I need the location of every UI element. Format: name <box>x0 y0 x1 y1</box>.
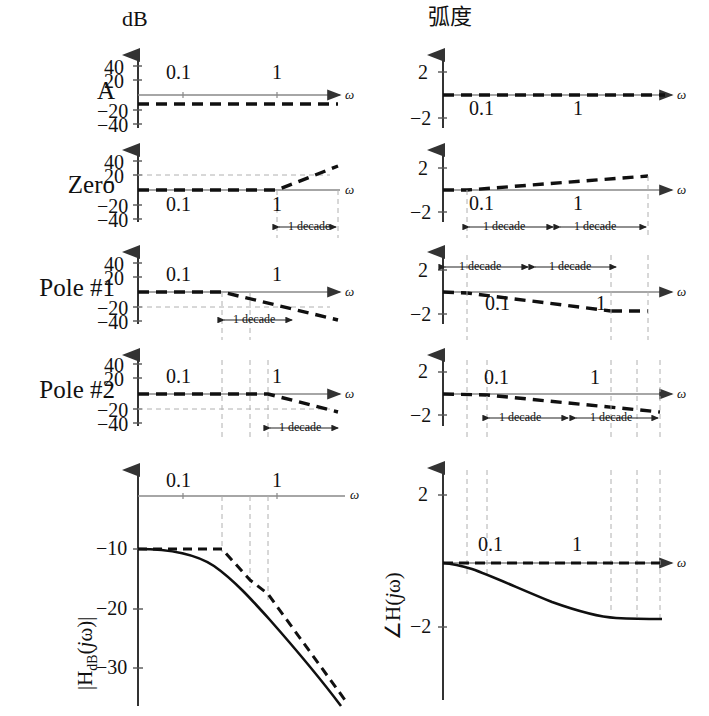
ytick-20: 20 <box>104 268 124 288</box>
panel-a-magnitude <box>133 55 340 128</box>
ytick-neg40: −40 <box>97 414 128 434</box>
xtick-1: 1 <box>573 98 583 118</box>
omega-label: ω <box>677 556 686 569</box>
ytick-2: 2 <box>418 260 428 280</box>
xtick-1: 1 <box>572 534 582 554</box>
xtick-1: 1 <box>596 293 606 313</box>
xtick-0.1: 0.1 <box>484 367 509 387</box>
xtick-0.1: 0.1 <box>166 62 191 82</box>
ytick-2: 2 <box>418 158 428 178</box>
omega-label: ω <box>677 387 686 400</box>
ytick-2: 2 <box>418 484 428 504</box>
ytick-neg40: −40 <box>97 115 128 135</box>
decade-annotation: 1 decade <box>233 313 275 325</box>
xtick-0.1: 0.1 <box>166 194 191 214</box>
xtick-0.1: 0.1 <box>478 534 503 554</box>
ytick-neg30: −30 <box>96 657 127 677</box>
ytick-20: 20 <box>104 71 124 91</box>
omega-label: ω <box>345 285 354 298</box>
row-label-zero: Zero <box>20 172 115 197</box>
ytick-neg2: −2 <box>410 108 431 128</box>
panel-pole2-phase <box>438 355 672 440</box>
ytick-2: 2 <box>418 361 428 381</box>
omega-label: ω <box>677 88 686 101</box>
ytick-20: 20 <box>104 166 124 186</box>
xtick-1: 1 <box>272 264 282 284</box>
ytick-neg20: −20 <box>96 598 127 618</box>
omega-label: ω <box>345 88 354 101</box>
panel-total-magnitude <box>133 470 345 706</box>
ytick-neg2: −2 <box>410 202 431 222</box>
decade-annotation: 1 decade <box>499 411 541 423</box>
xtick-1: 1 <box>272 194 282 214</box>
decade-annotation: 1 decade <box>288 220 330 232</box>
xtick-1: 1 <box>573 193 583 213</box>
omega-label: ω <box>677 285 686 298</box>
xtick-1: 1 <box>272 470 282 490</box>
ytick-neg40: −40 <box>97 210 128 230</box>
ytick-neg10: −10 <box>96 538 127 558</box>
phase-axis-unit-label: 弧度 <box>428 6 472 28</box>
decade-annotation: 1 decade <box>574 220 616 232</box>
xtick-1: 1 <box>590 367 600 387</box>
decade-annotation: 1 decade <box>459 260 501 272</box>
ytick-neg2: −2 <box>410 304 431 324</box>
bode-construction-figure: dB 弧度 A Zero Pole #1 Pole #2 40 20 −20 −… <box>0 0 709 716</box>
panel-total-phase <box>438 468 672 700</box>
ytick-neg40: −40 <box>97 312 128 332</box>
omega-label: ω <box>677 183 686 196</box>
xtick-1: 1 <box>272 366 282 386</box>
ytick-neg2: −2 <box>410 405 431 425</box>
omega-label: ω <box>345 183 354 196</box>
ytick-neg2: −2 <box>410 616 431 636</box>
phase-axis-label: ∠H(jω) <box>383 572 404 640</box>
xtick-1: 1 <box>272 62 282 82</box>
ytick-20: 20 <box>104 369 124 389</box>
xtick-0.1: 0.1 <box>485 293 510 313</box>
omega-label: ω <box>345 387 354 400</box>
omega-label: ω <box>350 488 359 501</box>
magnitude-axis-label: |HdB(jω)| <box>75 617 100 690</box>
ytick-2: 2 <box>418 62 428 82</box>
panel-pole1-magnitude <box>133 252 340 340</box>
decade-annotation: 1 decade <box>483 220 525 232</box>
xtick-0.1: 0.1 <box>166 470 191 490</box>
xtick-0.1: 0.1 <box>166 366 191 386</box>
xtick-0.1: 0.1 <box>166 264 191 284</box>
xtick-0.1: 0.1 <box>469 193 494 213</box>
decade-annotation: 1 decade <box>279 421 321 433</box>
xtick-0.1: 0.1 <box>469 98 494 118</box>
magnitude-axis-unit-label: dB <box>122 8 148 30</box>
decade-annotation: 1 decade <box>549 260 591 272</box>
decade-annotation: 1 decade <box>590 411 632 423</box>
